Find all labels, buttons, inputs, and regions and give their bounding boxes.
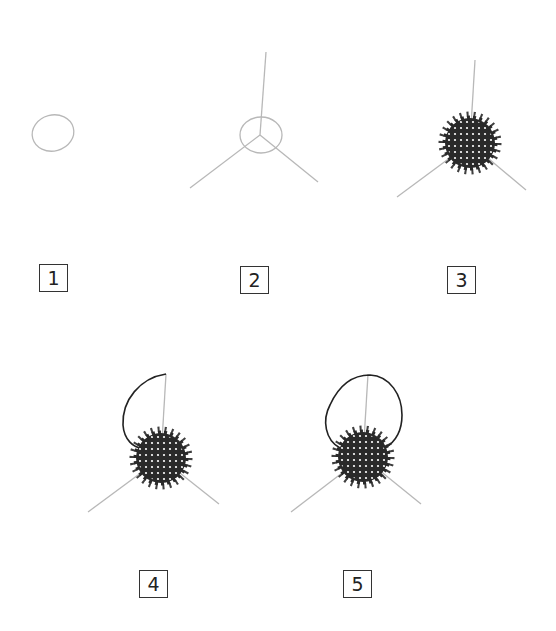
oval-sketch bbox=[28, 110, 78, 156]
stem-line-left bbox=[190, 135, 260, 188]
step-label-5: 5 bbox=[343, 570, 372, 598]
flower-head bbox=[334, 428, 392, 486]
drawing-canvas bbox=[0, 0, 556, 631]
step-3-drawing bbox=[397, 60, 526, 197]
step-label-2: 2 bbox=[240, 266, 269, 294]
step-2-drawing bbox=[190, 52, 318, 188]
flower-head bbox=[441, 114, 499, 172]
step-label-3: 3 bbox=[447, 266, 476, 294]
step-5-drawing bbox=[291, 374, 421, 512]
step-4-drawing bbox=[88, 374, 219, 512]
step-1-drawing bbox=[28, 110, 78, 156]
flower-head bbox=[132, 429, 190, 487]
step-label-1: 1 bbox=[39, 264, 68, 292]
stem-line-right bbox=[260, 135, 318, 182]
step-label-4: 4 bbox=[139, 570, 168, 598]
stem-line-top bbox=[260, 52, 266, 135]
